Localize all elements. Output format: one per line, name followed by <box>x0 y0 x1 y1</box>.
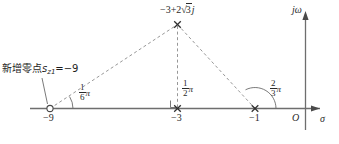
annotation-leader-line <box>42 78 48 104</box>
added-zero-equals: =−9 <box>55 63 78 74</box>
complex-pole-label: −3+2√3j <box>160 5 195 15</box>
angle-label-one-sixth-pi: 1 6 π <box>79 83 90 102</box>
real-axis-label: σ <box>320 114 325 124</box>
tick-label-minus-9: −9 <box>43 113 54 123</box>
angle-label-one-half-pi: 1 2 π <box>182 79 193 98</box>
imag-axis-label: jω <box>292 5 302 15</box>
complex-pole-prefix: −3+2 <box>160 4 181 15</box>
complex-pole-suffix: j <box>192 4 195 15</box>
pi-symbol: π <box>189 84 194 94</box>
imag-axis-arrowhead <box>302 11 308 20</box>
pi-symbol: π <box>277 84 282 94</box>
real-axis-arrowhead <box>311 105 320 111</box>
angle-arc-one-sixth-pi <box>70 97 73 109</box>
right-angle-marker-at-minus-3 <box>171 101 178 108</box>
origin-label: O <box>292 113 299 123</box>
figure-canvas: −3+2√3j jω σ O −9 −3 −1 新增零点sz1=−9 1 6 π… <box>0 0 339 144</box>
imag-axis-group <box>302 11 308 130</box>
pi-symbol: π <box>86 88 91 98</box>
tick-label-minus-3: −3 <box>171 113 182 123</box>
angle-label-two-thirds-pi: 2 3 π <box>270 79 281 98</box>
added-zero-annotation: 新增零点sz1=−9 <box>2 64 78 76</box>
zero-marker-minus-9 <box>47 105 53 111</box>
tick-label-minus-1: −1 <box>249 113 260 123</box>
added-zero-text-prefix: 新增零点 <box>2 63 42 74</box>
